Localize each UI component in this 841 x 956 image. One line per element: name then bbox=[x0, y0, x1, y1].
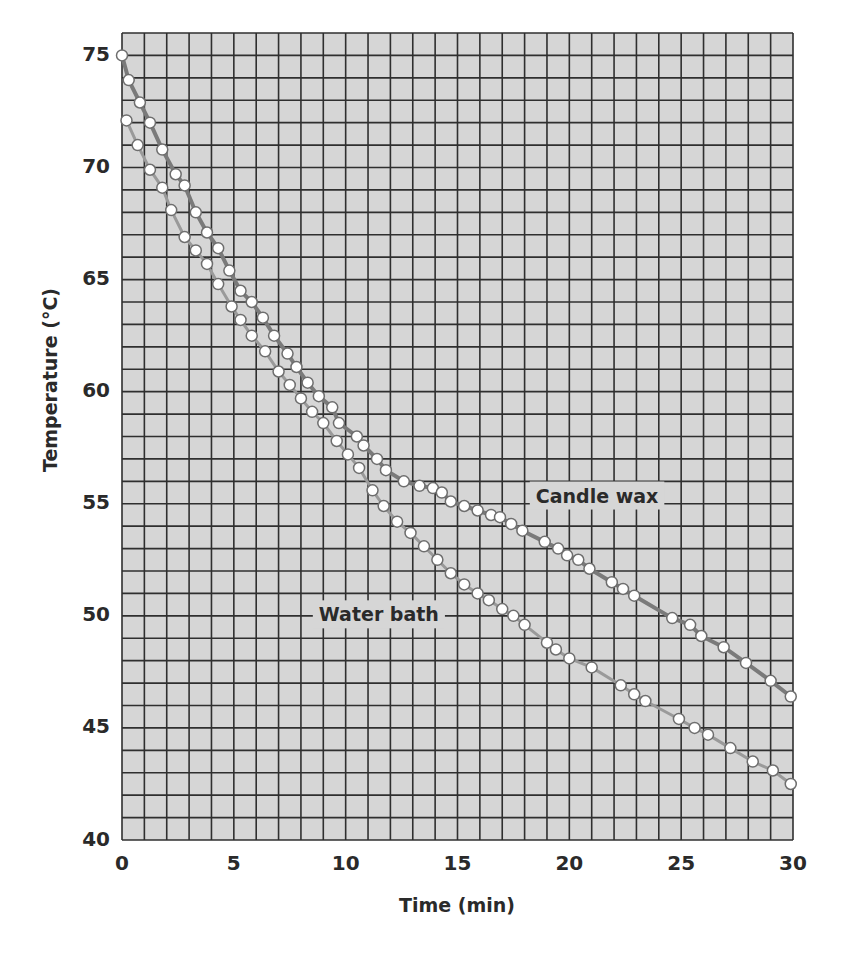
data-point-marker bbox=[354, 462, 365, 473]
data-point-marker bbox=[696, 631, 707, 642]
data-point-marker bbox=[295, 393, 306, 404]
data-point-marker bbox=[121, 115, 132, 126]
data-point-marker bbox=[246, 297, 257, 308]
x-tick-label: 25 bbox=[667, 851, 695, 875]
x-tick-label: 30 bbox=[779, 851, 807, 875]
data-point-marker bbox=[562, 550, 573, 561]
data-point-marker bbox=[157, 182, 168, 193]
data-point-marker bbox=[213, 243, 224, 254]
data-point-marker bbox=[213, 279, 224, 290]
data-point-marker bbox=[497, 604, 508, 615]
data-point-marker bbox=[606, 577, 617, 588]
x-tick-label: 10 bbox=[332, 851, 360, 875]
data-point-marker bbox=[201, 227, 212, 238]
data-point-marker bbox=[741, 657, 752, 668]
data-point-marker bbox=[291, 362, 302, 373]
data-point-marker bbox=[483, 595, 494, 606]
data-point-marker bbox=[117, 50, 128, 61]
data-point-marker bbox=[629, 689, 640, 700]
data-point-marker bbox=[459, 579, 470, 590]
data-point-marker bbox=[398, 476, 409, 487]
data-point-marker bbox=[327, 402, 338, 413]
data-point-marker bbox=[673, 713, 684, 724]
x-axis-ticks: 051015202530 bbox=[115, 851, 807, 875]
data-point-marker bbox=[436, 487, 447, 498]
y-tick-label: 45 bbox=[82, 714, 110, 738]
data-point-marker bbox=[472, 505, 483, 516]
y-tick-label: 60 bbox=[82, 378, 110, 402]
y-tick-label: 50 bbox=[82, 602, 110, 626]
data-point-marker bbox=[584, 563, 595, 574]
data-point-marker bbox=[392, 516, 403, 527]
data-point-marker bbox=[282, 348, 293, 359]
data-point-marker bbox=[418, 541, 429, 552]
data-point-marker bbox=[367, 485, 378, 496]
data-point-marker bbox=[273, 366, 284, 377]
data-point-marker bbox=[718, 642, 729, 653]
data-point-marker bbox=[629, 590, 640, 601]
data-point-marker bbox=[508, 610, 519, 621]
data-point-marker bbox=[313, 391, 324, 402]
data-point-marker bbox=[445, 568, 456, 579]
data-point-marker bbox=[179, 231, 190, 242]
data-point-marker bbox=[747, 756, 758, 767]
data-point-marker bbox=[190, 245, 201, 256]
data-point-marker bbox=[201, 258, 212, 269]
y-tick-label: 65 bbox=[82, 266, 110, 290]
data-point-marker bbox=[144, 117, 155, 128]
data-point-marker bbox=[564, 653, 575, 664]
x-tick-label: 5 bbox=[227, 851, 241, 875]
data-point-marker bbox=[550, 644, 561, 655]
data-point-marker bbox=[459, 500, 470, 511]
data-point-marker bbox=[144, 164, 155, 175]
data-point-marker bbox=[618, 583, 629, 594]
data-point-marker bbox=[703, 729, 714, 740]
data-point-marker bbox=[134, 97, 145, 108]
data-point-marker bbox=[767, 765, 778, 776]
data-point-marker bbox=[517, 525, 528, 536]
data-point-marker bbox=[494, 512, 505, 523]
data-point-marker bbox=[260, 346, 271, 357]
data-point-marker bbox=[405, 527, 416, 538]
data-point-marker bbox=[342, 449, 353, 460]
series-label-water-bath: Water bath bbox=[319, 603, 439, 625]
cooling-curve-chart: Candle waxWater bath 4045505560657075 05… bbox=[0, 0, 841, 956]
data-point-marker bbox=[432, 554, 443, 565]
data-point-marker bbox=[573, 554, 584, 565]
data-point-marker bbox=[414, 480, 425, 491]
data-point-marker bbox=[302, 377, 313, 388]
y-tick-label: 55 bbox=[82, 490, 110, 514]
data-point-marker bbox=[235, 314, 246, 325]
data-point-marker bbox=[170, 169, 181, 180]
data-point-marker bbox=[380, 465, 391, 476]
data-point-marker bbox=[333, 418, 344, 429]
y-axis-ticks: 4045505560657075 bbox=[82, 42, 110, 851]
data-point-marker bbox=[235, 285, 246, 296]
x-axis-title: Time (min) bbox=[399, 894, 515, 916]
data-point-marker bbox=[371, 453, 382, 464]
data-point-marker bbox=[586, 662, 597, 673]
data-point-marker bbox=[445, 496, 456, 507]
data-point-marker bbox=[307, 406, 318, 417]
data-point-marker bbox=[179, 180, 190, 191]
data-point-marker bbox=[190, 207, 201, 218]
data-point-marker bbox=[166, 205, 177, 216]
data-point-marker bbox=[378, 500, 389, 511]
data-point-marker bbox=[269, 330, 280, 341]
data-point-marker bbox=[132, 140, 143, 151]
data-point-marker bbox=[318, 418, 329, 429]
y-tick-label: 40 bbox=[82, 827, 110, 851]
x-tick-label: 20 bbox=[555, 851, 583, 875]
data-point-marker bbox=[226, 301, 237, 312]
data-point-marker bbox=[246, 330, 257, 341]
data-point-marker bbox=[284, 379, 295, 390]
data-point-marker bbox=[358, 440, 369, 451]
data-point-marker bbox=[224, 265, 235, 276]
data-point-marker bbox=[539, 536, 550, 547]
data-point-marker bbox=[689, 722, 700, 733]
series-label-candle-wax: Candle wax bbox=[536, 485, 659, 507]
y-axis-title: Temperature (°C) bbox=[39, 288, 61, 472]
data-point-marker bbox=[506, 518, 517, 529]
x-tick-label: 0 bbox=[115, 851, 129, 875]
data-point-marker bbox=[667, 613, 678, 624]
